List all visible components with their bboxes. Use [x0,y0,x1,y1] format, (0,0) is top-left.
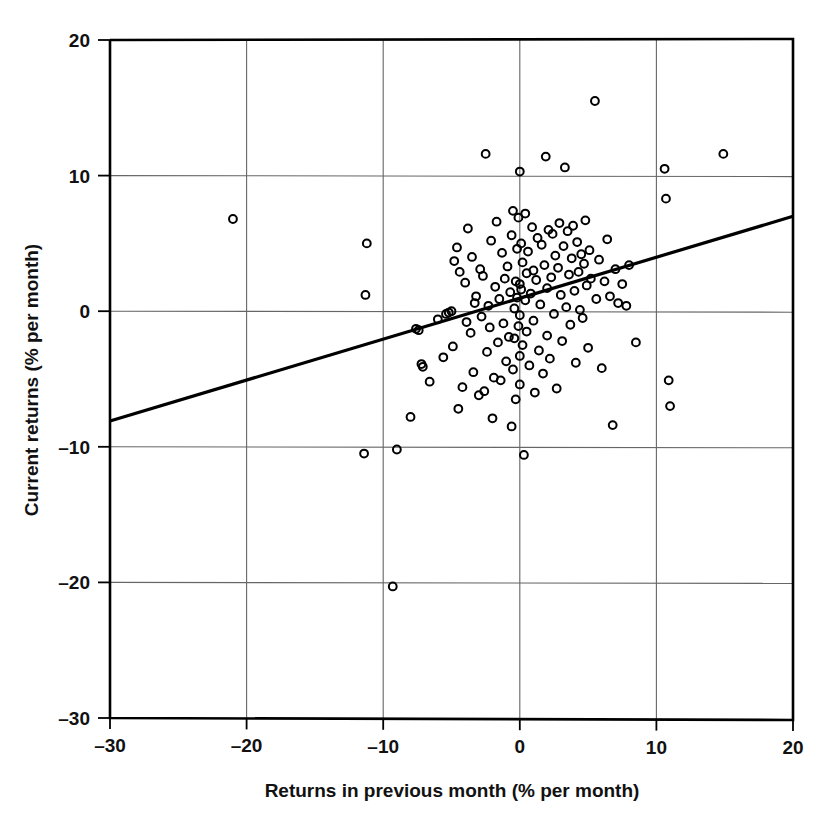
data-point [535,347,543,355]
data-point [504,263,512,271]
regression-line [110,216,793,421]
y-axis-title: Current returns (% per month) [21,244,42,516]
data-point [486,324,494,332]
y-tick-label: 0 [79,301,90,322]
data-point [478,313,486,321]
data-point [525,362,533,370]
data-point [229,215,237,223]
data-point [569,222,577,230]
plot-border [110,39,793,720]
data-point [459,383,467,391]
data-point [506,288,514,296]
data-point [538,241,546,249]
grid-line-horizontal [110,447,793,448]
x-tick-label: –10 [367,736,399,757]
x-axis-title: Returns in previous month (% per month) [265,780,640,801]
data-point [360,450,368,458]
y-tick-label: 20 [69,30,90,51]
data-point [530,317,538,325]
data-point [407,413,415,421]
data-point [512,395,520,403]
data-point [719,150,727,158]
data-point [547,273,555,281]
data-point [591,97,599,105]
data-point [491,283,499,291]
data-point [550,310,558,318]
data-point [467,329,475,337]
data-point [573,238,581,246]
data-point [449,343,457,351]
data-point [524,248,532,256]
data-point [454,405,462,413]
x-tick-label: 10 [646,737,667,758]
data-point [453,244,461,252]
chart-canvas: –30–20–1001020–30–20–1001020 Returns in … [0,0,835,834]
grid-lines [110,40,793,720]
data-point [389,583,397,591]
data-point [666,402,674,410]
x-tick-label: –20 [231,735,263,756]
data-point [551,252,559,260]
data-point [508,231,516,239]
data-point [581,216,589,224]
data-points [229,97,727,590]
data-point [553,385,561,393]
data-point [632,338,640,346]
data-point [543,332,551,340]
data-point [487,237,495,245]
data-point [571,287,579,295]
data-point [592,295,600,303]
data-point [542,153,550,161]
grid-line-horizontal [110,582,793,583]
data-point [426,378,434,386]
data-point [554,264,562,272]
data-point [509,366,517,374]
data-point [606,292,614,300]
data-point [463,318,471,326]
data-point [469,368,477,376]
data-point [362,291,370,299]
data-point [508,423,516,431]
data-point [502,357,510,365]
grid-line-horizontal [110,176,793,177]
data-point [493,218,501,226]
data-point [576,306,584,314]
data-point [568,254,576,262]
data-point [560,242,568,250]
data-point [662,195,670,203]
data-point [601,277,609,285]
data-point [531,389,539,397]
y-tick-label: –10 [58,437,90,458]
data-point [530,267,538,275]
x-tick-label: 0 [515,736,526,757]
data-point [558,337,566,345]
data-point [557,291,565,299]
tick-labels: –30–20–1001020–30–20–1001020 [58,30,803,758]
axis-ticks [98,40,793,731]
y-tick-label: 10 [69,166,90,187]
data-point [528,223,536,231]
data-point [500,320,508,328]
data-point [532,276,540,284]
data-point [580,260,588,268]
data-point [498,249,506,257]
data-point [579,314,587,322]
data-point [577,250,585,258]
data-point [517,240,525,248]
data-point [450,257,458,265]
data-point [614,299,622,307]
data-point [480,387,488,395]
data-point [565,271,573,279]
data-point [461,279,469,287]
x-tick-label: –30 [94,735,126,756]
data-point [468,253,476,261]
data-point [598,364,606,372]
data-point [520,451,528,459]
data-point [495,295,503,303]
data-point [595,256,603,264]
data-point [523,328,531,336]
plot-frame [110,39,793,720]
data-point [609,421,617,429]
data-point [603,235,611,243]
data-point [622,302,630,310]
